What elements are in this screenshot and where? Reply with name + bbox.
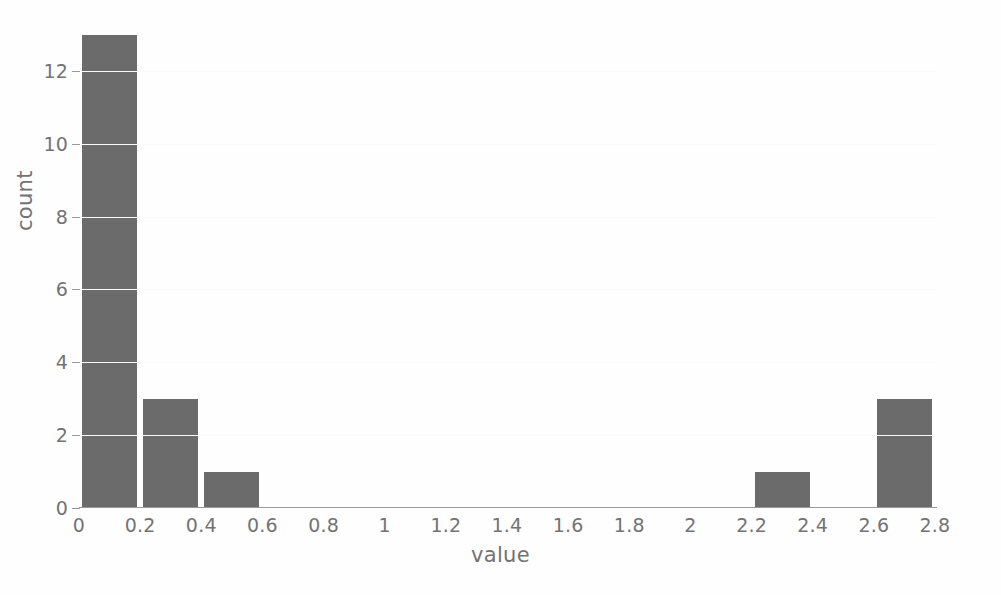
y-tick-label: 2: [22, 426, 68, 445]
y-axis-title: count: [13, 170, 37, 231]
y-tick-label: 4: [22, 353, 68, 372]
x-tick-label: 0.6: [247, 516, 278, 535]
histogram-bar: [755, 472, 810, 508]
gridline: [79, 289, 935, 290]
x-tick-label: 1.6: [553, 516, 584, 535]
x-axis-title: value: [0, 543, 1001, 567]
x-tick-label: 2: [684, 516, 696, 535]
histogram-bar: [143, 399, 198, 508]
y-tick-label: 6: [22, 280, 68, 299]
gridline: [79, 362, 935, 363]
histogram-figure: 024681012 00.20.40.60.811.21.41.61.822.2…: [0, 0, 1001, 595]
gridline: [79, 435, 935, 436]
x-tick-label: 0.2: [125, 516, 156, 535]
x-tick-label: 0.4: [186, 516, 217, 535]
x-tick-label: 0.8: [308, 516, 339, 535]
y-tick-mark: [72, 144, 80, 145]
x-tick-label: 2.8: [920, 516, 951, 535]
y-tick-mark: [72, 435, 80, 436]
gridline: [79, 71, 935, 72]
y-tick-mark: [72, 217, 80, 218]
histogram-bar: [82, 35, 137, 508]
y-tick-mark: [72, 71, 80, 72]
histogram-bar: [877, 399, 932, 508]
y-tick-mark: [72, 362, 80, 363]
x-tick-label: 0: [73, 516, 85, 535]
gridline: [79, 217, 935, 218]
y-tick-label: 12: [22, 61, 68, 80]
histogram-bar: [204, 472, 259, 508]
y-tick-mark: [72, 508, 80, 509]
x-tick-label: 1.8: [614, 516, 645, 535]
x-axis-line: [79, 507, 937, 508]
y-tick-mark: [72, 289, 80, 290]
x-tick-label: 1.2: [430, 516, 461, 535]
x-tick-label: 2.2: [736, 516, 767, 535]
x-tick-label: 2.6: [858, 516, 889, 535]
x-tick-label: 1: [379, 516, 391, 535]
y-tick-label: 10: [22, 134, 68, 153]
y-axis-ticks: 024681012: [0, 0, 68, 595]
x-tick-label: 2.4: [797, 516, 828, 535]
x-tick-label: 1.4: [492, 516, 523, 535]
gridline: [79, 144, 935, 145]
y-tick-label: 0: [22, 499, 68, 518]
